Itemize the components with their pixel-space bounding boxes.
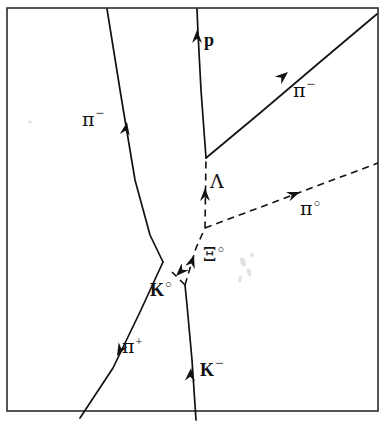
label-xi-zero: Ξ○ [203,245,223,264]
label-lambda-symbol: Λ [210,170,224,192]
label-pi-plus: π+ [122,337,141,356]
label-pi-plus-symbol: π [122,335,135,357]
label-k-zero-symbol: K [150,280,164,300]
label-pi-zero-symbol: π [300,197,313,219]
label-k-zero-charge-superscript: ○ [165,278,172,290]
label-k-minus-symbol: K [200,360,214,380]
label-proton: p [204,31,214,49]
label-pi-minus-decay-charge-superscript: − [307,76,315,92]
label-pi-zero: π○ [300,199,319,218]
label-pi-minus-upper-charge-superscript: − [96,105,104,121]
film-artifact-d [28,120,32,123]
label-pi-minus-decay: π− [293,79,314,100]
label-lambda: Λ [210,172,224,191]
bubble-chamber-figure: pπ−π−Λπ○Ξ○K○π+K− [0,0,391,422]
label-proton-symbol: p [204,30,214,50]
label-xi-zero-symbol: Ξ [203,243,216,265]
label-pi-minus-upper-symbol: π [82,108,95,130]
diagram-frame-border [7,8,378,411]
label-pi-minus-upper: π− [82,108,103,129]
event-diagram-canvas [0,0,391,422]
label-pi-zero-charge-superscript: ○ [314,197,321,209]
label-k-minus-charge-superscript: − [215,355,223,371]
label-pi-plus-charge-superscript: + [136,335,143,349]
label-pi-minus-decay-symbol: π [293,79,306,101]
label-xi-zero-charge-superscript: ○ [217,243,224,255]
label-k-zero: K○ [150,281,171,299]
label-k-minus: K− [200,358,222,379]
